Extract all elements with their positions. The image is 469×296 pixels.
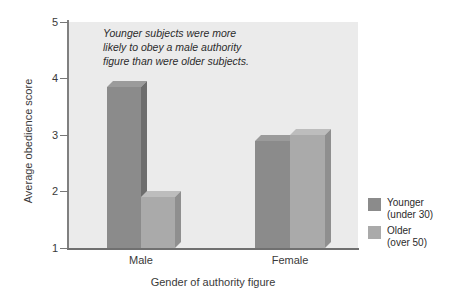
legend-label-younger-sub: (under 30): [387, 209, 433, 221]
legend-label-older-main: Older: [387, 225, 427, 237]
legend-label-younger-main: Younger: [387, 197, 433, 209]
bar-side: [325, 129, 331, 248]
bar-face: [107, 87, 141, 248]
legend-swatch-older: [368, 226, 381, 239]
annotation-line-3: figure than were older subjects.: [103, 54, 289, 68]
bar-male-older: [141, 197, 175, 248]
chart-annotation: Younger subjects were more likely to obe…: [103, 26, 289, 68]
legend-swatch-younger: [368, 198, 381, 211]
bar-male-younger: [107, 87, 141, 248]
annotation-line-2: likely to obey a male authority: [103, 40, 289, 54]
legend-label-younger: Younger (under 30): [387, 197, 433, 220]
y-tick-1: [60, 248, 68, 249]
x-axis-line: [67, 248, 359, 250]
legend-label-older: Older (over 50): [387, 225, 427, 248]
y-tick-2: [60, 191, 68, 192]
y-axis-title: Average obedience score: [22, 51, 34, 231]
y-tick-4: [60, 78, 68, 79]
bar-face: [290, 135, 325, 248]
y-tick-label-5: 5: [6, 16, 58, 28]
chart-legend: Younger (under 30) Older (over 50): [368, 197, 468, 253]
bar-face: [255, 141, 290, 248]
y-tick-3: [60, 135, 68, 136]
bar-side: [175, 191, 181, 248]
category-label-male: Male: [96, 254, 186, 266]
legend-label-older-sub: (over 50): [387, 237, 427, 249]
bar-female-younger: [255, 141, 290, 248]
bar-face: [141, 197, 175, 248]
legend-item-younger: Younger (under 30): [368, 197, 468, 220]
y-tick-label-1: 1: [6, 242, 58, 254]
annotation-line-1: Younger subjects were more: [103, 26, 289, 40]
obedience-bar-chart: 5 4 3 2 1 Average obedience score Younge…: [0, 0, 469, 296]
legend-item-older: Older (over 50): [368, 225, 468, 248]
category-label-female: Female: [245, 254, 335, 266]
y-tick-5: [60, 22, 68, 23]
x-axis-title: Gender of authority figure: [68, 276, 358, 288]
bar-female-older: [290, 135, 325, 248]
